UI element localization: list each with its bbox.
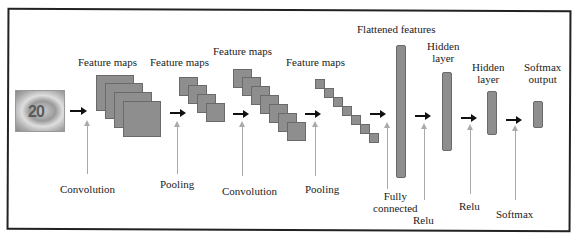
arrow-right-icon bbox=[233, 113, 247, 115]
pointer-arrow-icon bbox=[315, 126, 316, 176]
arrow-right-icon bbox=[170, 112, 184, 114]
arrow-right-icon bbox=[415, 115, 429, 117]
arrow-right-icon bbox=[305, 113, 319, 115]
label-fully-connected: Fully connected bbox=[373, 190, 418, 214]
label-feature-maps-4: Feature maps bbox=[286, 56, 345, 68]
label-feature-maps-3: Feature maps bbox=[213, 45, 272, 57]
input-image: 20 bbox=[15, 90, 65, 132]
flattened-features-bar bbox=[396, 45, 406, 178]
feature-map bbox=[206, 103, 225, 122]
pointer-arrow-icon bbox=[387, 127, 388, 189]
arrow-right-icon bbox=[506, 119, 520, 121]
hidden-layer-2-bar bbox=[487, 91, 497, 135]
label-softmax-output: Softmax output bbox=[524, 61, 561, 85]
label-convolution-1: Convolution bbox=[60, 183, 115, 195]
pointer-arrow-icon bbox=[177, 126, 178, 174]
speed-sign-glyph: 20 bbox=[28, 103, 44, 121]
label-pooling-1: Pooling bbox=[160, 178, 194, 190]
label-pooling-2: Pooling bbox=[305, 183, 339, 195]
label-softmax: Softmax bbox=[496, 208, 533, 220]
feature-map bbox=[287, 122, 306, 141]
label-relu-2: Relu bbox=[459, 200, 480, 212]
arrow-right-icon bbox=[70, 110, 85, 112]
arrow-right-icon bbox=[461, 117, 475, 119]
feature-map bbox=[369, 133, 379, 143]
pointer-arrow-icon bbox=[470, 129, 471, 194]
arrow-right-icon bbox=[370, 113, 384, 115]
label-feature-maps-2: Feature maps bbox=[150, 56, 209, 68]
label-relu-1: Relu bbox=[413, 214, 434, 226]
label-hidden-layer-1: Hidden layer bbox=[427, 40, 459, 64]
feature-map bbox=[123, 101, 161, 137]
pointer-arrow-icon bbox=[515, 130, 516, 200]
hidden-layer-1-bar bbox=[442, 72, 452, 151]
label-hidden-layer-2: Hidden layer bbox=[472, 61, 504, 85]
softmax-output-bar bbox=[533, 101, 543, 128]
label-feature-maps-1: Feature maps bbox=[78, 56, 137, 68]
label-convolution-2: Convolution bbox=[222, 185, 277, 197]
pointer-arrow-icon bbox=[87, 125, 88, 174]
label-flattened-features: Flattened features bbox=[357, 23, 436, 35]
pointer-arrow-icon bbox=[424, 128, 425, 200]
pointer-arrow-icon bbox=[242, 126, 243, 176]
